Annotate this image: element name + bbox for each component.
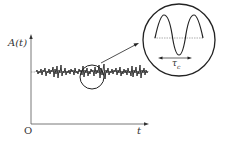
tau-sub: c: [177, 63, 180, 70]
tau-label: τc: [172, 59, 180, 70]
origin-label: O: [24, 126, 32, 136]
y-axis-arrow-icon: [29, 34, 32, 39]
zoom-arrow: [101, 45, 135, 63]
axes: [31, 38, 145, 124]
diagram-canvas: [0, 0, 226, 146]
y-axis-label: A(t): [8, 38, 27, 48]
noise-signal: [36, 64, 148, 79]
zoom-arrow-head-icon: [134, 43, 140, 47]
x-axis-arrow-icon: [144, 122, 149, 125]
x-axis-label: t: [137, 126, 141, 136]
diagram: A(t) t O τc: [0, 0, 226, 146]
